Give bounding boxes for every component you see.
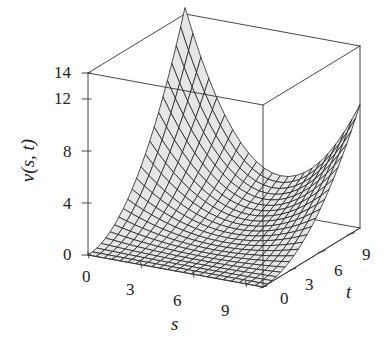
t-tick-label-3: 3 — [305, 276, 314, 293]
z-tick-label-0: 0 — [63, 246, 72, 263]
t-tick-label-6: 6 — [334, 262, 343, 279]
t-tick-label-0: 0 — [280, 290, 289, 307]
z-tick-label-8: 8 — [63, 143, 72, 160]
z-tick-label-4: 4 — [63, 195, 72, 212]
s-tick-label-9: 9 — [221, 302, 230, 319]
s-tick-label-6: 6 — [173, 292, 182, 309]
t-axis-title: t — [346, 282, 351, 301]
s-tick-label-3: 3 — [126, 281, 135, 298]
z-tick-label-12: 12 — [54, 90, 71, 107]
z-tick-label-14: 14 — [54, 64, 71, 81]
t-tick-label-9: 9 — [362, 246, 371, 263]
v-axis-title: v(s, t) — [18, 139, 37, 182]
surface-mesh — [88, 8, 360, 288]
s-axis-title: s — [171, 314, 178, 333]
surface-plot — [0, 0, 387, 349]
s-tick-label-0: 0 — [82, 268, 91, 285]
